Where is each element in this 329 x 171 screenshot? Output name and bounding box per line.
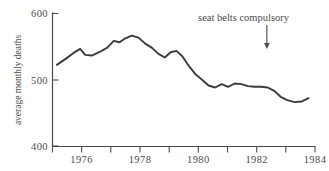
x-tick-label-1978: 1978 bbox=[129, 154, 152, 165]
annotation-arrow-seat-belts bbox=[264, 25, 270, 49]
y-tick-label-400: 400 bbox=[31, 141, 48, 152]
annotation-label-seat-belts-compulsory: seat belts compulsory bbox=[198, 12, 290, 23]
y-tick-label-500: 500 bbox=[31, 75, 48, 86]
x-tick-label-1984: 1984 bbox=[304, 154, 327, 165]
x-major-tick-marks bbox=[82, 147, 315, 153]
y-axis-title: average monthly deaths bbox=[13, 35, 23, 126]
x-minor-tick-marks bbox=[53, 147, 286, 153]
chart-figure: 600 500 400 1976 1978 1980 1982 1984 ave… bbox=[0, 0, 329, 171]
series-line-average-monthly-deaths bbox=[57, 36, 309, 103]
line-chart-plot: 600 500 400 1976 1978 1980 1982 1984 ave… bbox=[0, 0, 329, 171]
y-tick-label-600: 600 bbox=[31, 8, 48, 19]
x-tick-label-1980: 1980 bbox=[187, 154, 210, 165]
x-tick-label-1982: 1982 bbox=[245, 154, 268, 165]
y-tick-marks bbox=[53, 14, 59, 147]
arrow-down-icon bbox=[264, 43, 270, 49]
x-tick-label-1976: 1976 bbox=[70, 154, 93, 165]
